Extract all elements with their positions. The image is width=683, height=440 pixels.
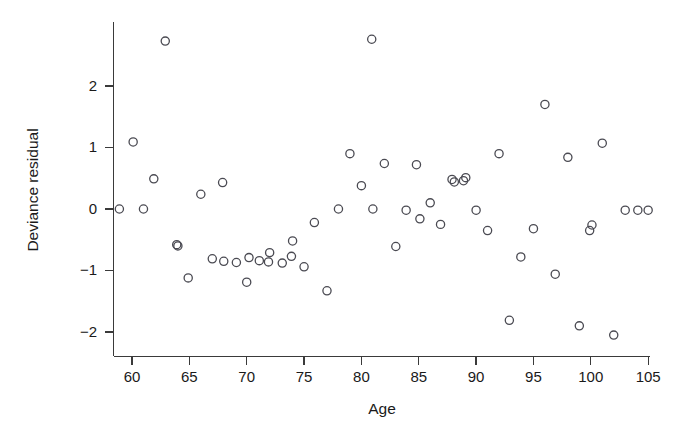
data-point bbox=[448, 175, 456, 183]
data-point bbox=[288, 237, 296, 245]
data-point bbox=[184, 274, 192, 282]
x-axis-title: Age bbox=[368, 400, 396, 417]
data-point bbox=[392, 242, 400, 250]
data-point bbox=[505, 316, 513, 324]
y-tick-label: −1 bbox=[80, 261, 97, 278]
data-point bbox=[598, 139, 606, 147]
data-point bbox=[287, 252, 295, 260]
data-point bbox=[483, 226, 491, 234]
data-point bbox=[310, 218, 318, 226]
data-point bbox=[450, 178, 458, 186]
x-tick-label: 60 bbox=[124, 368, 141, 385]
x-tick-group: 6065707580859095100105 bbox=[124, 357, 661, 386]
data-point bbox=[416, 215, 424, 223]
data-point bbox=[150, 175, 158, 183]
data-point bbox=[436, 220, 444, 228]
data-point bbox=[139, 205, 147, 213]
x-tick-label: 70 bbox=[238, 368, 255, 385]
data-point bbox=[161, 37, 169, 45]
data-point bbox=[564, 153, 572, 161]
data-point bbox=[472, 206, 480, 214]
data-point bbox=[208, 255, 216, 263]
data-point bbox=[255, 257, 263, 265]
x-tick-label: 100 bbox=[578, 368, 603, 385]
y-tick-group: 210−1−2 bbox=[80, 77, 114, 340]
data-point bbox=[541, 100, 549, 108]
data-point bbox=[412, 161, 420, 169]
data-point bbox=[300, 263, 308, 271]
data-point bbox=[529, 225, 537, 233]
x-tick-label: 65 bbox=[181, 368, 198, 385]
data-point bbox=[278, 259, 286, 267]
x-tick-label: 75 bbox=[296, 368, 313, 385]
data-point bbox=[357, 182, 365, 190]
data-point bbox=[245, 253, 253, 261]
y-axis: 210−1−2 bbox=[80, 22, 114, 356]
x-tick-label: 95 bbox=[525, 368, 542, 385]
deviance-residual-scatter-chart: 210−1−2 6065707580859095100105 Age Devia… bbox=[0, 0, 683, 440]
data-point bbox=[369, 205, 377, 213]
data-point bbox=[220, 257, 228, 265]
data-point bbox=[495, 150, 503, 158]
data-point bbox=[610, 331, 618, 339]
data-point bbox=[551, 270, 559, 278]
y-tick-label: 2 bbox=[89, 77, 97, 94]
x-tick-label: 85 bbox=[410, 368, 427, 385]
y-tick-label: −2 bbox=[80, 323, 97, 340]
data-point bbox=[402, 206, 410, 214]
data-point bbox=[346, 150, 354, 158]
data-point bbox=[219, 178, 227, 186]
data-point bbox=[243, 278, 251, 286]
y-tick-label: 1 bbox=[89, 138, 97, 155]
y-tick-label: 0 bbox=[89, 200, 97, 217]
data-point bbox=[323, 287, 331, 295]
x-tick-label: 90 bbox=[468, 368, 485, 385]
data-points-group bbox=[115, 35, 652, 339]
data-point bbox=[197, 190, 205, 198]
data-point bbox=[644, 206, 652, 214]
data-point bbox=[517, 253, 525, 261]
data-point bbox=[129, 138, 137, 146]
data-point bbox=[380, 159, 388, 167]
data-point bbox=[634, 206, 642, 214]
data-point bbox=[334, 205, 342, 213]
data-point bbox=[426, 199, 434, 207]
data-point bbox=[115, 205, 123, 213]
data-point bbox=[368, 35, 376, 43]
x-tick-label: 105 bbox=[636, 368, 661, 385]
scatter-plot-figure: 210−1−2 6065707580859095100105 Age Devia… bbox=[0, 0, 683, 440]
data-point bbox=[264, 258, 272, 266]
data-point bbox=[266, 249, 274, 257]
data-point bbox=[575, 322, 583, 330]
data-point bbox=[232, 258, 240, 266]
x-axis: 6065707580859095100105 bbox=[114, 357, 661, 386]
x-tick-label: 80 bbox=[353, 368, 370, 385]
y-axis-title: Deviance residual bbox=[24, 128, 41, 251]
data-point bbox=[621, 206, 629, 214]
